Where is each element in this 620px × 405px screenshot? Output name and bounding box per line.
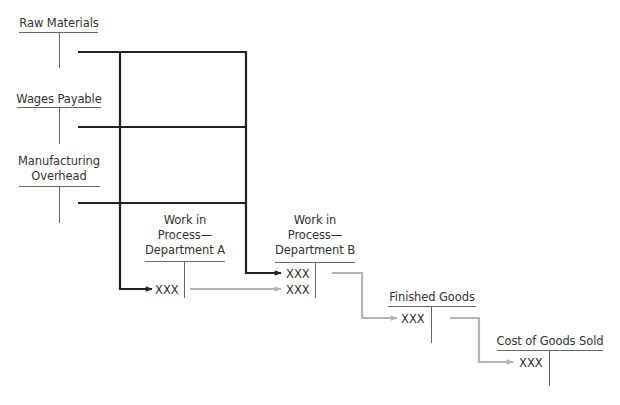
t-account-lines [17,33,603,387]
cogs-title: Cost of Goods Sold [493,334,607,349]
cogs-debit: XXX [519,356,543,370]
wip-a-title-2: Process— [140,228,230,243]
wip-b-debit-2: XXX [286,283,310,297]
wip-a-title-3: Department A [140,243,230,258]
manufacturing-overhead-title-2: Overhead [14,169,104,184]
finished-goods-debit: XXX [401,312,425,326]
transfer-flow-lines [190,273,513,362]
wages-payable-title: Wages Payable [14,92,104,107]
wip-b-title-3: Department B [270,243,360,258]
manufacturing-overhead-title-1: Manufacturing [14,154,104,169]
raw-materials-title: Raw Materials [19,16,99,31]
wip-a-debit: XXX [155,283,179,297]
wip-b-title-1: Work in [270,213,360,228]
wip-a-title-1: Work in [140,213,230,228]
wip-b-debit-1: XXX [286,267,310,281]
cost-flow-diagram: Raw Materials Wages Payable Manufacturin… [0,0,620,405]
wip-b-title-2: Process— [270,228,360,243]
finished-goods-title: Finished Goods [384,290,480,305]
